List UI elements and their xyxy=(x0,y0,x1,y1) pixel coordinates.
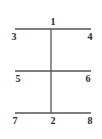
label-6: 6 xyxy=(86,74,91,84)
label-3: 3 xyxy=(12,32,17,42)
label-7: 7 xyxy=(13,116,18,126)
label-5: 5 xyxy=(16,74,21,84)
label-2: 2 xyxy=(51,116,56,126)
label-4: 4 xyxy=(88,32,93,42)
label-1: 1 xyxy=(51,17,56,27)
diagram: 1 3 4 5 6 7 2 8 xyxy=(0,0,102,139)
label-8: 8 xyxy=(88,116,93,126)
